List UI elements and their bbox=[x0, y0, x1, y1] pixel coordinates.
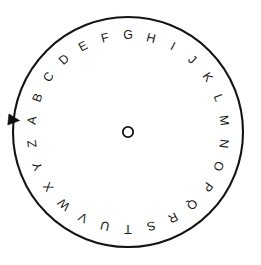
spinner-wheel-svg: ABCDEFGHIJKLMNOPQRSTUVWXYZ bbox=[0, 0, 261, 265]
sector-letter-g: G bbox=[123, 28, 133, 42]
sector-letter-n: N bbox=[217, 138, 232, 149]
sector-letter-t: T bbox=[124, 222, 132, 236]
sector-letter-m: M bbox=[216, 114, 231, 126]
wheel-center-hub bbox=[123, 127, 133, 137]
spinner-figure: ABCDEFGHIJKLMNOPQRSTUVWXYZ bbox=[0, 0, 261, 265]
